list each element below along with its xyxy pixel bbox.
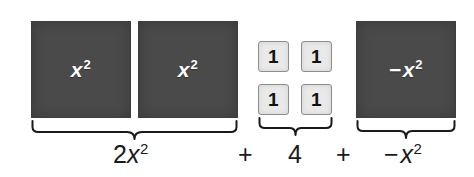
tile-negative-x-squared-exponent: 2 [415, 57, 423, 72]
tile-x-squared-2-base: x [178, 58, 190, 81]
brace-negative-x-squared-group [356, 120, 456, 140]
tile-unit-3[interactable]: 1 [258, 84, 289, 115]
tile-x-squared-1-exponent: 2 [83, 57, 91, 72]
tile-unit-4[interactable]: 1 [301, 84, 332, 115]
brace-unit-group [258, 117, 333, 137]
tile-unit-2[interactable]: 1 [301, 41, 332, 72]
algebra-tiles-figure: x2 x2 1 1 1 1 −x2 2x2 + [0, 0, 474, 177]
tile-x-squared-1-base: x [71, 58, 83, 81]
expression-term1-exponent: 2 [140, 140, 148, 157]
expression-term3-exponent: 2 [414, 140, 422, 157]
expression-term-4: 4 [288, 142, 302, 167]
expression-term1-base: x [127, 140, 140, 168]
expression-term-2x-squared: 2x2 [113, 142, 148, 167]
tile-unit-3-label: 1 [268, 90, 279, 109]
tile-x-squared-2[interactable]: x2 [138, 21, 238, 118]
tile-unit-4-label: 1 [311, 90, 322, 109]
tile-negative-x-squared-label: −x2 [389, 59, 423, 80]
expression-operator-1: + [238, 142, 253, 167]
tile-x-squared-1-label: x2 [71, 59, 91, 80]
tile-negative-x-squared-sign: − [389, 58, 402, 81]
expression-term3-sign: − [384, 140, 399, 168]
tile-unit-1-label: 1 [268, 47, 279, 66]
tile-unit-2-label: 1 [311, 47, 322, 66]
tile-negative-x-squared-base: x [403, 58, 415, 81]
tile-x-squared-2-exponent: 2 [190, 57, 198, 72]
tile-x-squared-2-label: x2 [178, 59, 198, 80]
tile-unit-1[interactable]: 1 [258, 41, 289, 72]
expression-operator-2: + [336, 142, 351, 167]
tile-x-squared-1[interactable]: x2 [31, 21, 131, 118]
tile-negative-x-squared[interactable]: −x2 [356, 21, 456, 118]
brace-x-squared-group [31, 120, 238, 140]
expression-term-negative-x-squared: −x2 [384, 142, 422, 167]
expression-term3-base: x [401, 140, 414, 168]
expression-term1-coefficient: 2 [113, 140, 127, 168]
